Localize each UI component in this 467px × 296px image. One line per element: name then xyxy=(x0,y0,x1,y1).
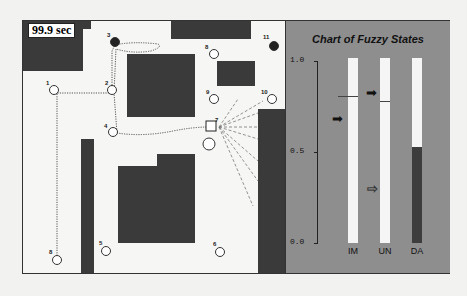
waypoint-11 xyxy=(269,41,279,51)
waypoint-5 xyxy=(101,246,111,256)
waypoint-2 xyxy=(107,85,117,95)
chart-title: Chart of Fuzzy States xyxy=(286,33,450,45)
im-indicator-arrow-icon: ➡ xyxy=(332,112,343,125)
waypoint-9 xyxy=(209,94,219,104)
waypoint-label-9: 9 xyxy=(206,89,209,95)
bar-da-fill xyxy=(412,147,422,243)
waypoint-4 xyxy=(108,127,118,137)
waypoint-label-2: 2 xyxy=(105,80,108,86)
bar-label-im: IM xyxy=(341,246,365,256)
waypoint-6 xyxy=(215,247,225,257)
un-indicator-arrow-icon: ➡ xyxy=(366,86,377,99)
bar-im xyxy=(348,58,358,243)
waypoint-label-11: 11 xyxy=(263,34,269,40)
waypoint-label-10: 10 xyxy=(261,89,268,95)
waypoint-3 xyxy=(110,37,120,47)
waypoint-label-7: 7 xyxy=(215,117,218,123)
waypoint-8-upper xyxy=(209,49,219,59)
fuzzy-states-chart: Chart of Fuzzy States 1.0 0.5 0.0 ➡ IM ➡… xyxy=(285,21,450,273)
waypoint-10 xyxy=(267,94,277,104)
bar-label-un: UN xyxy=(373,246,397,256)
waypoint-label-1: 1 xyxy=(46,80,49,86)
y-tick-1-0 xyxy=(314,61,318,62)
robot-trajectory xyxy=(23,21,285,273)
y-tick-label-0-5: 0.5 xyxy=(290,146,304,155)
bar-da xyxy=(412,58,422,243)
y-tick-0-5 xyxy=(314,152,318,153)
un-hollow-arrow-icon: ⇨ xyxy=(367,182,378,195)
robot-map: 99.9 sec 1 2 3 4 5 6 7 8 9 10 11 8 xyxy=(23,21,285,273)
y-tick-label-0-0: 0.0 xyxy=(290,237,304,246)
waypoint-label-4: 4 xyxy=(104,123,107,129)
waypoint-label-8: 8 xyxy=(49,249,52,255)
bar-un xyxy=(380,58,390,243)
y-tick-0-0 xyxy=(314,243,318,244)
robot-goal-circle xyxy=(203,138,215,150)
bar-un-marker xyxy=(380,101,390,102)
waypoint-label-8-upper: 8 xyxy=(205,44,208,50)
bar-label-da: DA xyxy=(405,246,429,256)
waypoint-label-6: 6 xyxy=(213,241,216,247)
waypoint-label-5: 5 xyxy=(99,240,102,246)
waypoint-1 xyxy=(49,85,59,95)
waypoint-label-3: 3 xyxy=(107,32,110,38)
y-tick-label-1-0: 1.0 xyxy=(290,55,304,64)
simulation-window: 99.9 sec 1 2 3 4 5 6 7 8 9 10 11 8 Chart… xyxy=(22,20,450,274)
waypoint-8 xyxy=(52,255,62,265)
elapsed-time: 99.9 sec xyxy=(28,23,75,38)
bar-im-marker xyxy=(338,96,358,97)
